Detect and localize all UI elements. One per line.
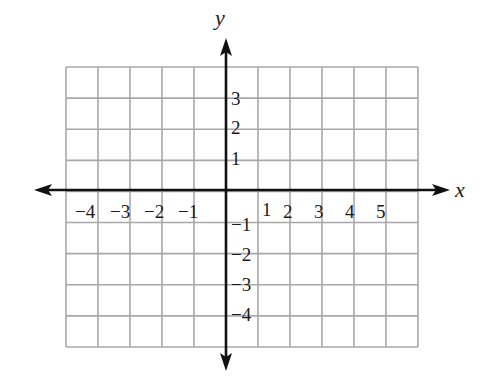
x-tick-label: 5 (376, 201, 386, 222)
x-tick-label: −1 (178, 201, 198, 222)
x-tick-label: 2 (283, 201, 293, 222)
y-tick-label: −3 (231, 274, 251, 295)
x-tick-label: −2 (144, 201, 164, 222)
coordinate-plane: x y −4 −3 −2 −1 1 2 3 4 5 3 2 1 −1 −2 −3… (0, 0, 501, 381)
x-tick-label: 1 (262, 199, 272, 220)
y-tick-label: 1 (231, 148, 241, 169)
x-tick-label: −3 (110, 201, 130, 222)
x-axis-title: x (454, 177, 465, 202)
y-tick-labels: 3 2 1 −1 −2 −3 −4 (231, 88, 252, 325)
y-tick-label: −2 (231, 244, 251, 265)
y-tick-label: 2 (231, 117, 241, 138)
x-tick-label: 4 (345, 201, 355, 222)
y-tick-label: −4 (231, 304, 252, 325)
y-tick-label: 3 (231, 88, 241, 109)
y-axis-title: y (213, 5, 225, 30)
x-tick-label: 3 (314, 201, 324, 222)
y-tick-label: −1 (231, 214, 251, 235)
x-tick-label: −4 (75, 201, 96, 222)
